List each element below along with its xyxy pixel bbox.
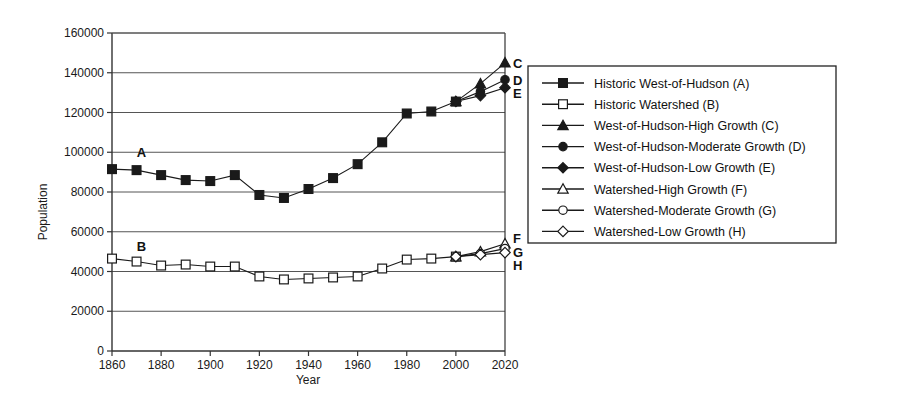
marker-open-square xyxy=(280,275,289,284)
y-tick-label: 40000 xyxy=(71,265,105,279)
edge-label-H: H xyxy=(513,258,522,273)
marker-filled-square xyxy=(427,107,436,116)
marker-filled-square xyxy=(230,171,239,180)
x-tick-label: 1880 xyxy=(148,358,175,372)
marker-filled-square xyxy=(329,174,338,183)
x-tick-label: 1920 xyxy=(246,358,273,372)
y-tick-label: 100000 xyxy=(64,145,104,159)
population-projection-chart: 0200004000060000800001000001200001400001… xyxy=(0,0,900,407)
marker-open-square xyxy=(157,261,166,270)
y-tick-label: 60000 xyxy=(71,225,105,239)
legend-label: West-of-Hudson-Low Growth (E) xyxy=(594,161,775,175)
marker-filled-square xyxy=(108,165,117,174)
legend-label: Watershed-Low Growth (H) xyxy=(594,225,746,239)
marker-filled-square xyxy=(206,177,215,186)
legend-label: West-of-Hudson-High Growth (C) xyxy=(594,119,779,133)
marker-filled-square xyxy=(280,194,289,203)
y-tick-label: 0 xyxy=(97,344,104,358)
x-tick-label: 1900 xyxy=(197,358,224,372)
marker-open-circle xyxy=(559,206,567,214)
edge-label-E: E xyxy=(513,86,522,101)
y-tick-label: 140000 xyxy=(64,66,104,80)
x-tick-label: 1960 xyxy=(344,358,371,372)
x-tick-labels: 186018801900192019401960198020002020 xyxy=(99,358,519,372)
y-tick-label: 80000 xyxy=(71,185,105,199)
marker-open-square xyxy=(378,264,387,273)
legend-label: Historic Watershed (B) xyxy=(594,98,719,112)
marker-open-square xyxy=(132,257,141,266)
x-tick-label: 1980 xyxy=(393,358,420,372)
marker-open-square xyxy=(108,254,117,263)
y-tick-label: 120000 xyxy=(64,106,104,120)
y-axis-title: Population xyxy=(36,184,50,241)
marker-open-square xyxy=(304,274,313,283)
legend-label: West-of-Hudson-Moderate Growth (D) xyxy=(594,140,806,154)
marker-open-square xyxy=(402,255,411,264)
marker-filled-square xyxy=(181,176,190,185)
y-tick-label: 160000 xyxy=(64,26,104,40)
marker-filled-circle xyxy=(559,142,567,150)
edge-label-F: F xyxy=(513,231,521,246)
edge-label-C: C xyxy=(513,56,523,71)
y-tick-labels: 0200004000060000800001000001200001400001… xyxy=(64,26,104,358)
marker-open-square xyxy=(181,260,190,269)
marker-open-square xyxy=(427,254,436,263)
marker-filled-square xyxy=(157,171,166,180)
y-tick-label: 20000 xyxy=(71,304,105,318)
marker-open-square xyxy=(255,272,264,281)
marker-filled-square xyxy=(353,160,362,169)
marker-filled-square xyxy=(559,79,568,88)
x-axis-title: Year xyxy=(296,373,320,387)
legend-label: Historic West-of-Hudson (A) xyxy=(594,77,749,91)
marker-filled-square xyxy=(304,185,313,194)
annotation-A: A xyxy=(137,145,147,160)
x-tick-label: 1860 xyxy=(99,358,126,372)
legend-label: Watershed-Moderate Growth (G) xyxy=(594,204,776,218)
x-tick-label: 2000 xyxy=(443,358,470,372)
marker-open-square xyxy=(206,262,215,271)
x-tick-label: 2020 xyxy=(492,358,519,372)
marker-open-square xyxy=(230,262,239,271)
chart-canvas: 0200004000060000800001000001200001400001… xyxy=(0,0,900,407)
marker-open-square xyxy=(353,272,362,281)
legend[interactable]: Historic West-of-Hudson (A)Historic Wate… xyxy=(528,66,836,243)
marker-open-square xyxy=(329,273,338,282)
marker-filled-square xyxy=(378,138,387,147)
annotation-B: B xyxy=(137,239,146,254)
marker-filled-square xyxy=(402,109,411,118)
marker-filled-square xyxy=(255,191,264,200)
legend-label: Watershed-High Growth (F) xyxy=(594,183,747,197)
x-tick-label: 1940 xyxy=(295,358,322,372)
marker-open-square xyxy=(559,100,568,109)
marker-filled-square xyxy=(132,166,141,175)
